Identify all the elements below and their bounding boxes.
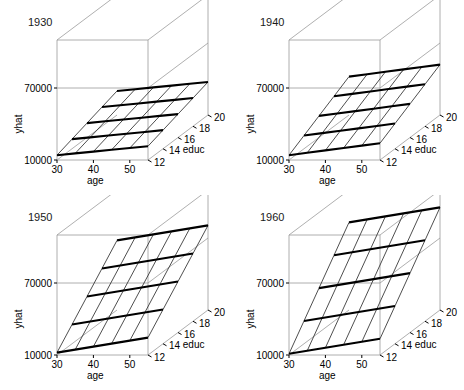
- y-tick-mark: [440, 115, 444, 117]
- surface-plot-1950: 7000010000yhat304050age1214161820educ195…: [0, 195, 232, 390]
- y-tick-label-16: 16: [416, 329, 428, 340]
- y-tick-label-16: 16: [184, 329, 196, 340]
- y-tick-mark: [208, 115, 212, 117]
- panel-title: 1930: [28, 16, 52, 28]
- y-tick-label-18: 18: [431, 318, 443, 329]
- panel-title: 1950: [28, 211, 52, 223]
- y-tick-label-14: 14: [401, 145, 413, 156]
- mesh-line-constant-educ: [72, 310, 163, 325]
- mesh-line-constant-educ: [304, 306, 395, 321]
- z-tick-label-10000: 10000: [256, 350, 284, 361]
- box-top-right-edge: [148, 195, 208, 235]
- panel-title: 1940: [260, 16, 284, 28]
- y-axis-label-educ: educ: [415, 339, 437, 350]
- y-axis-label-educ: educ: [183, 339, 205, 350]
- y-tick-label-18: 18: [199, 318, 211, 329]
- z-axis-label-yhat: yhat: [13, 309, 24, 328]
- y-tick-mark: [208, 310, 212, 312]
- y-tick-label-20: 20: [446, 307, 458, 318]
- mesh-line-constant-educ: [319, 273, 410, 288]
- x-tick-label-50: 50: [356, 359, 368, 370]
- y-tick-mark: [178, 138, 182, 140]
- mesh-line-constant-educ: [117, 225, 208, 240]
- x-axis-label-age: age: [87, 175, 104, 186]
- mesh-line-constant-educ: [117, 82, 208, 91]
- mesh-line-constant-educ: [102, 98, 193, 107]
- y-tick-mark: [178, 333, 182, 335]
- y-tick-label-12: 12: [154, 157, 166, 168]
- mesh-line-constant-educ: [334, 84, 425, 96]
- x-tick-label-40: 40: [320, 359, 332, 370]
- y-tick-mark: [380, 160, 384, 162]
- y-tick-label-20: 20: [446, 112, 458, 123]
- surface-plot-1960: 7000010000yhat304050age1214161820educ196…: [232, 195, 464, 390]
- z-tick-label-70000: 70000: [24, 278, 52, 289]
- box-top-left-edge: [289, 195, 349, 235]
- mesh-line-constant-educ: [87, 114, 178, 123]
- y-tick-label-20: 20: [214, 112, 226, 123]
- y-tick-mark: [425, 126, 429, 128]
- box-top-left-edge: [57, 0, 117, 40]
- panel-1950: 7000010000yhat304050age1214161820educ195…: [0, 195, 232, 390]
- y-tick-mark: [193, 126, 197, 128]
- box-top-right-edge: [148, 0, 208, 40]
- panel-title: 1960: [260, 211, 284, 223]
- z-tick-label-70000: 70000: [24, 83, 52, 94]
- x-tick-label-40: 40: [88, 359, 100, 370]
- y-tick-label-12: 12: [386, 157, 398, 168]
- x-tick-label-50: 50: [124, 359, 136, 370]
- x-axis-label-age: age: [319, 175, 336, 186]
- panel-1960: 7000010000yhat304050age1214161820educ196…: [232, 195, 464, 390]
- y-tick-label-18: 18: [431, 123, 443, 134]
- z-axis-label-yhat: yhat: [245, 114, 256, 133]
- y-tick-label-14: 14: [169, 340, 181, 351]
- y-axis-label-educ: educ: [415, 144, 437, 155]
- y-tick-mark: [410, 138, 414, 140]
- y-tick-mark: [163, 344, 167, 346]
- y-tick-label-12: 12: [154, 352, 166, 363]
- y-tick-mark: [440, 310, 444, 312]
- box-top-right-edge: [380, 0, 440, 40]
- z-axis-label-yhat: yhat: [245, 309, 256, 328]
- z-tick-label-10000: 10000: [256, 155, 284, 166]
- box-top-left-edge: [289, 0, 349, 40]
- y-tick-mark: [380, 355, 384, 357]
- mesh-line-constant-educ: [349, 65, 440, 77]
- mesh-line-constant-educ: [289, 339, 380, 354]
- mesh-line-constant-educ: [57, 146, 148, 155]
- y-tick-label-20: 20: [214, 307, 226, 318]
- x-tick-label-40: 40: [320, 164, 332, 175]
- x-axis-label-age: age: [319, 370, 336, 381]
- y-tick-mark: [163, 149, 167, 151]
- z-tick-label-10000: 10000: [24, 350, 52, 361]
- x-tick-label-30: 30: [51, 359, 63, 370]
- z-gridline-70000-depth: [148, 238, 208, 283]
- z-tick-label-10000: 10000: [24, 155, 52, 166]
- x-tick-label-30: 30: [283, 164, 295, 175]
- y-tick-mark: [395, 344, 399, 346]
- x-tick-label-30: 30: [51, 164, 63, 175]
- box-top-left-edge: [57, 195, 117, 235]
- mesh-line-constant-educ: [349, 207, 440, 222]
- z-gridline-70000-depth: [148, 43, 208, 88]
- mesh-line-constant-educ: [102, 253, 193, 268]
- mesh-line-constant-educ: [87, 282, 178, 297]
- y-tick-mark: [148, 160, 152, 162]
- y-tick-label-14: 14: [401, 340, 413, 351]
- mesh-line-constant-educ: [319, 104, 410, 116]
- y-tick-label-14: 14: [169, 145, 181, 156]
- x-tick-label-50: 50: [124, 164, 136, 175]
- mesh-line-constant-educ: [304, 124, 395, 136]
- x-tick-label-50: 50: [356, 164, 368, 175]
- y-tick-mark: [410, 333, 414, 335]
- y-tick-label-16: 16: [416, 134, 428, 145]
- panel-1940: 7000010000yhat304050age1214161820educ194…: [232, 0, 464, 195]
- z-axis-label-yhat: yhat: [13, 114, 24, 133]
- y-tick-label-16: 16: [184, 134, 196, 145]
- y-tick-mark: [148, 355, 152, 357]
- z-tick-label-70000: 70000: [256, 83, 284, 94]
- y-tick-mark: [193, 321, 197, 323]
- panel-1930: 7000010000yhat304050age1214161820educ193…: [0, 0, 232, 195]
- mesh-line-constant-educ: [289, 143, 380, 155]
- y-tick-mark: [425, 321, 429, 323]
